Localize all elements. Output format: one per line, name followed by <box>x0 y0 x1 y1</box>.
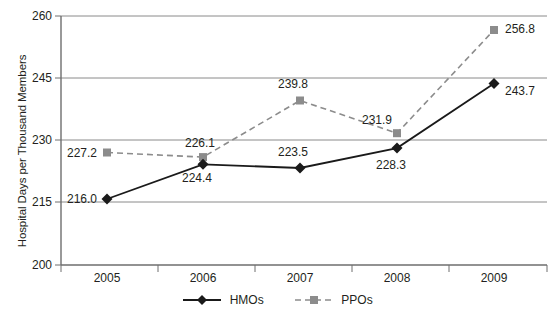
data-label-ppos: 256.8 <box>505 23 535 35</box>
legend-item-ppos: PPOs <box>295 292 373 307</box>
data-label-ppos: 231.9 <box>362 114 392 126</box>
data-label-ppos: 226.1 <box>185 137 215 149</box>
series-markers-ppos <box>103 26 498 161</box>
data-label-hmos: 228.3 <box>376 159 406 171</box>
chart-legend: HMOs PPOs <box>0 292 556 307</box>
x-axis-tick-label: 2008 <box>367 272 427 284</box>
data-label-hmos: 223.5 <box>278 146 308 158</box>
x-axis-tick-label: 2006 <box>173 272 233 284</box>
legend-marker-ppos <box>295 293 333 307</box>
data-point-marker <box>295 163 306 174</box>
data-point-marker <box>296 97 304 105</box>
data-label-ppos: 239.8 <box>278 78 308 90</box>
data-label-hmos: 216.0 <box>67 193 97 205</box>
y-axis-ticks <box>55 16 61 265</box>
data-point-marker <box>393 129 401 137</box>
legend-label-ppos: PPOs <box>341 293 372 307</box>
data-label-ppos: 227.2 <box>67 147 97 159</box>
data-label-hmos: 243.7 <box>505 85 535 97</box>
line-chart: Hospital Days per Thousand Members 260 2… <box>0 0 556 314</box>
x-axis-tick-label: 2009 <box>464 272 524 284</box>
data-label-hmos: 224.4 <box>182 172 212 184</box>
data-point-marker <box>102 194 113 205</box>
legend-label-hmos: HMOs <box>230 293 264 307</box>
legend-marker-hmos <box>183 293 221 307</box>
x-axis-tick-label: 2007 <box>270 272 330 284</box>
series-line-ppos <box>107 30 494 157</box>
data-point-marker <box>490 26 498 34</box>
legend-item-hmos: HMOs <box>183 292 263 307</box>
x-axis-tick-label: 2005 <box>77 272 137 284</box>
gridlines <box>61 16 547 202</box>
data-point-marker <box>103 149 111 157</box>
data-point-marker <box>392 143 403 154</box>
data-point-marker <box>489 78 500 89</box>
